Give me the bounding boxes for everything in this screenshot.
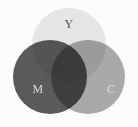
cyan-set-circle [51,40,125,114]
cmy-venn-diagram: Y M C [0,0,138,127]
venn-canvas: Y M C [0,0,138,127]
